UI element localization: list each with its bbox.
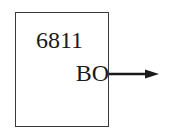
chip-label: 6811	[36, 28, 83, 52]
output-arrow-icon	[109, 67, 161, 81]
pin-label: BO	[76, 61, 109, 85]
